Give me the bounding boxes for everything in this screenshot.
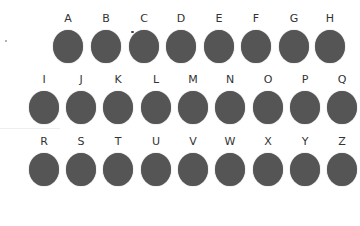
letter-dot-g[interactable]: G [278,12,310,63]
letter-dot-v[interactable]: V [177,135,209,186]
letter-label: P [302,73,309,86]
dot-circle[interactable] [290,153,320,186]
letter-dot-m[interactable]: M [177,73,209,124]
letter-label: H [326,12,334,25]
letter-dot-t[interactable]: T [102,135,134,186]
letter-label: V [189,135,197,148]
letter-dot-c[interactable]: C [128,12,160,63]
dot-circle[interactable] [253,153,283,186]
letter-label: U [152,135,160,148]
letter-label: A [64,12,72,25]
letter-label: F [253,12,259,25]
letter-dot-s[interactable]: S [65,135,97,186]
letter-label: C [140,12,148,25]
letter-dot-e[interactable]: E [203,12,235,63]
letter-dot-r[interactable]: R [28,135,60,186]
dot-circle[interactable] [290,91,320,124]
dot-circle[interactable] [53,30,83,63]
dot-circle[interactable] [315,30,345,63]
letter-label: G [290,12,299,25]
speck-mark [5,40,7,42]
letter-dot-q[interactable]: Q [326,73,358,124]
speck-mark [131,31,134,33]
letter-label: N [226,73,234,86]
letter-label: L [153,73,159,86]
dot-circle[interactable] [66,153,96,186]
letter-dot-x[interactable]: X [252,135,284,186]
letter-dot-o[interactable]: O [252,73,284,124]
dot-circle[interactable] [66,91,96,124]
dot-circle[interactable] [253,91,283,124]
letter-label: D [177,12,185,25]
dot-circle[interactable] [204,30,234,63]
dot-circle[interactable] [178,153,208,186]
dot-circle[interactable] [103,153,133,186]
letter-dot-h[interactable]: H [314,12,346,63]
letter-dot-p[interactable]: P [289,73,321,124]
letter-dot-d[interactable]: D [165,12,197,63]
letter-dot-u[interactable]: U [140,135,172,186]
letter-dot-n[interactable]: N [214,73,246,124]
letter-dot-b[interactable]: B [90,12,122,63]
dot-circle[interactable] [141,91,171,124]
dot-circle[interactable] [29,153,59,186]
dot-circle[interactable] [241,30,271,63]
letter-dot-j[interactable]: J [65,73,97,124]
letter-label: Y [302,135,309,148]
letter-label: X [264,135,272,148]
dot-circle[interactable] [327,91,357,124]
dot-circle[interactable] [327,153,357,186]
letter-dot-k[interactable]: K [102,73,134,124]
letter-label: B [102,12,110,25]
letter-label: Z [338,135,346,148]
dot-circle[interactable] [29,91,59,124]
dot-circle[interactable] [129,30,159,63]
dot-circle[interactable] [91,30,121,63]
letter-dot-a[interactable]: A [52,12,84,63]
dot-circle[interactable] [141,153,171,186]
letter-label: T [115,135,122,148]
letter-label: R [40,135,48,148]
dot-circle[interactable] [215,153,245,186]
divider-line [0,128,60,129]
letter-dot-l[interactable]: L [140,73,172,124]
letter-label: Q [338,73,347,86]
letter-label: J [79,73,82,86]
letter-dot-i[interactable]: I [28,73,60,124]
dot-circle[interactable] [279,30,309,63]
letter-label: I [42,73,45,86]
dot-circle[interactable] [166,30,196,63]
dot-circle[interactable] [178,91,208,124]
letter-dot-z[interactable]: Z [326,135,358,186]
dot-circle[interactable] [103,91,133,124]
letter-label: O [264,73,273,86]
letter-label: W [225,135,236,148]
letter-dot-w[interactable]: W [214,135,246,186]
letter-label: M [188,73,198,86]
dot-circle[interactable] [215,91,245,124]
letter-label: K [114,73,121,86]
letter-label: E [216,12,223,25]
letter-dot-f[interactable]: F [240,12,272,63]
letter-label: S [78,135,85,148]
letter-dot-y[interactable]: Y [289,135,321,186]
